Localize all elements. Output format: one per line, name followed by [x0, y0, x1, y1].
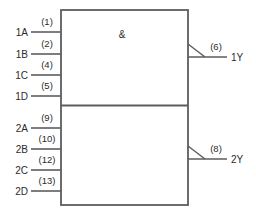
- output-wedge-1y: [188, 44, 205, 57]
- logic-symbol-diagram: & 1A 1B 1C 1D (1) (2) (4) (5) (6) 1Y 2A …: [0, 0, 256, 218]
- input-label-1a: 1A: [16, 27, 29, 38]
- pin-number-2a: (9): [41, 112, 53, 123]
- pin-number-1y: (6): [210, 41, 222, 52]
- pin-number-2c: (12): [39, 154, 56, 165]
- and-qualifier-symbol: &: [119, 29, 126, 40]
- output-label-2y: 2Y: [231, 154, 244, 165]
- pin-number-2y: (8): [210, 143, 222, 154]
- logic-symbol-canvas: & 1A 1B 1C 1D (1) (2) (4) (5) (6) 1Y 2A …: [0, 0, 256, 218]
- input-label-2c: 2C: [15, 165, 28, 176]
- pin-number-1b: (2): [41, 38, 53, 49]
- pin-number-1a: (1): [41, 16, 53, 27]
- input-label-2a: 2A: [16, 123, 29, 134]
- pin-number-2b: (10): [39, 133, 56, 144]
- input-label-1c: 1C: [15, 70, 28, 81]
- pin-number-2d: (13): [39, 175, 56, 186]
- input-label-1d: 1D: [15, 91, 28, 102]
- input-label-1b: 1B: [16, 49, 29, 60]
- pin-number-1d: (5): [41, 80, 53, 91]
- pin-number-1c: (4): [41, 59, 53, 70]
- input-label-2d: 2D: [15, 186, 28, 197]
- input-label-2b: 2B: [16, 144, 29, 155]
- output-wedge-2y: [188, 146, 205, 159]
- output-label-1y: 1Y: [231, 52, 244, 63]
